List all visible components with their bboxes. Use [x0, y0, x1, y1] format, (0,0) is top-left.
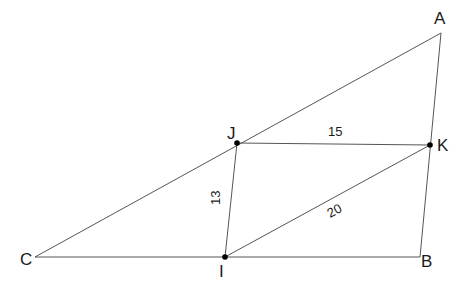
label-I: I: [219, 262, 224, 281]
segment-IK: [225, 145, 430, 257]
length-JI: 13: [208, 191, 223, 205]
segment-JK: [237, 143, 430, 145]
point-I: [222, 254, 228, 260]
label-C: C: [20, 250, 32, 269]
segment-JI: [225, 143, 237, 257]
point-K: [427, 142, 433, 148]
label-B: B: [421, 252, 432, 271]
label-K: K: [437, 136, 449, 155]
geometry-diagram: A B C I J K 15 13 20: [0, 0, 469, 288]
length-JK: 15: [328, 124, 342, 139]
label-A: A: [434, 9, 446, 28]
label-J: J: [227, 124, 236, 143]
length-IK: 20: [324, 201, 344, 221]
